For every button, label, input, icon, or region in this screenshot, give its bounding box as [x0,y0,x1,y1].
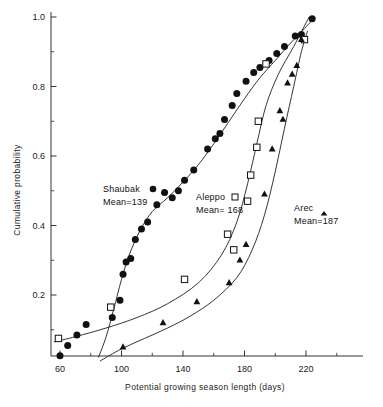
open-square-icon [232,194,238,200]
marker-open-square [181,276,187,282]
data-markers [55,15,315,359]
y-tick-label: 0.8 [32,82,45,92]
legend-entry-arec: Arec Mean=187 [294,203,338,226]
marker-open-square [255,118,261,124]
marker-open-square [244,198,250,204]
marker-filled-circle [190,166,197,173]
x-tick-label: 180 [237,364,252,374]
marker-filled-circle [138,225,145,232]
legend-label-shaubak: Shaubak [103,184,140,194]
marker-filled-circle [109,314,116,321]
y-tick-label: 0.2 [32,290,45,300]
series-shaubak [57,15,316,359]
marker-filled-circle [161,189,168,196]
marker-filled-triangle [261,190,268,196]
marker-filled-triangle [160,319,167,325]
marker-filled-circle [243,78,250,85]
x-tick-label: 100 [114,364,129,374]
cumulative-probability-chart: 60100140180220 0.20.40.60.81.0 Potential… [0,0,383,407]
marker-filled-circle [83,321,90,328]
marker-filled-triangle [243,241,250,247]
marker-filled-circle [73,331,80,338]
marker-open-square [108,304,114,310]
marker-filled-triangle [236,256,243,262]
marker-filled-circle [64,342,71,349]
marker-filled-circle [309,15,316,22]
marker-filled-triangle [120,343,127,349]
marker-filled-circle [212,135,219,142]
x-axis-label: Potential growing season length (days) [125,382,285,392]
y-tick-labels: 0.20.40.60.81.0 [32,12,45,300]
filled-circle-icon [150,186,157,193]
y-axis-label: Cumulative probability [12,144,22,236]
marker-open-square [55,335,61,341]
legend-mean-aleppo: Mean= 168 [196,205,243,215]
marker-filled-triangle [289,70,296,76]
legend-entry-shaubak: Shaubak Mean=139 [103,184,156,207]
marker-filled-circle [132,236,139,243]
marker-open-square [254,144,260,150]
marker-open-square [231,247,237,253]
y-tick-label: 0.4 [32,221,45,231]
marker-filled-circle [175,187,182,194]
fitted-curves [54,17,315,361]
marker-filled-circle [229,102,236,109]
marker-open-square [247,172,253,178]
marker-filled-circle [181,177,188,184]
x-tick-label: 220 [298,364,313,374]
legend-label-aleppo: Aleppo [196,192,225,202]
marker-filled-circle [221,116,228,123]
marker-filled-triangle [269,145,276,151]
marker-filled-circle [292,33,299,40]
legend-mean-arec: Mean=187 [294,216,338,226]
y-tick-label: 0.6 [32,151,45,161]
marker-open-square [263,61,269,67]
marker-filled-triangle [226,279,233,285]
marker-filled-triangle [280,116,287,122]
marker-filled-circle [233,90,240,97]
figure-container: 60100140180220 0.20.40.60.81.0 Potential… [0,0,383,407]
marker-filled-circle [153,201,160,208]
marker-filled-circle [144,219,151,226]
x-tick-label: 60 [55,364,65,374]
marker-filled-circle [273,50,280,57]
marker-filled-circle [116,297,123,304]
marker-filled-circle [57,352,64,359]
marker-filled-triangle [284,79,291,85]
legend-entry-aleppo: Aleppo Mean= 168 [196,192,243,215]
legend-label-arec: Arec [294,203,314,213]
marker-filled-triangle [193,298,200,304]
axis-group [51,12,363,356]
filled-triangle-icon [321,211,328,215]
x-tick-labels: 60100140180220 [55,364,314,374]
y-tick-label: 1.0 [32,12,45,22]
marker-filled-circle [204,146,211,153]
marker-filled-circle [127,255,134,262]
marker-filled-circle [169,194,176,201]
marker-filled-circle [120,271,127,278]
legend-mean-shaubak: Mean=139 [103,197,147,207]
marker-filled-circle [250,69,257,76]
marker-filled-circle [216,130,223,137]
x-tick-label: 140 [175,364,190,374]
marker-filled-triangle [276,107,283,113]
marker-open-square [224,231,230,237]
marker-filled-circle [281,43,288,50]
